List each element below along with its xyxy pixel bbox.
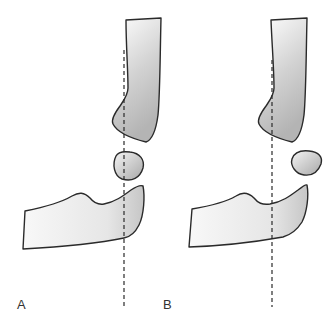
radial-head-b [292,151,322,175]
ulna-b [189,185,308,247]
humerus-b [258,18,307,142]
panel-b [189,18,322,307]
panel-a [23,18,161,307]
ulna-a [23,186,144,249]
panel-label-a: A [17,297,26,312]
elbow-diagram [0,0,335,327]
humerus-a [112,18,161,142]
radial-head-a [114,152,143,180]
panel-label-b: B [163,297,172,312]
